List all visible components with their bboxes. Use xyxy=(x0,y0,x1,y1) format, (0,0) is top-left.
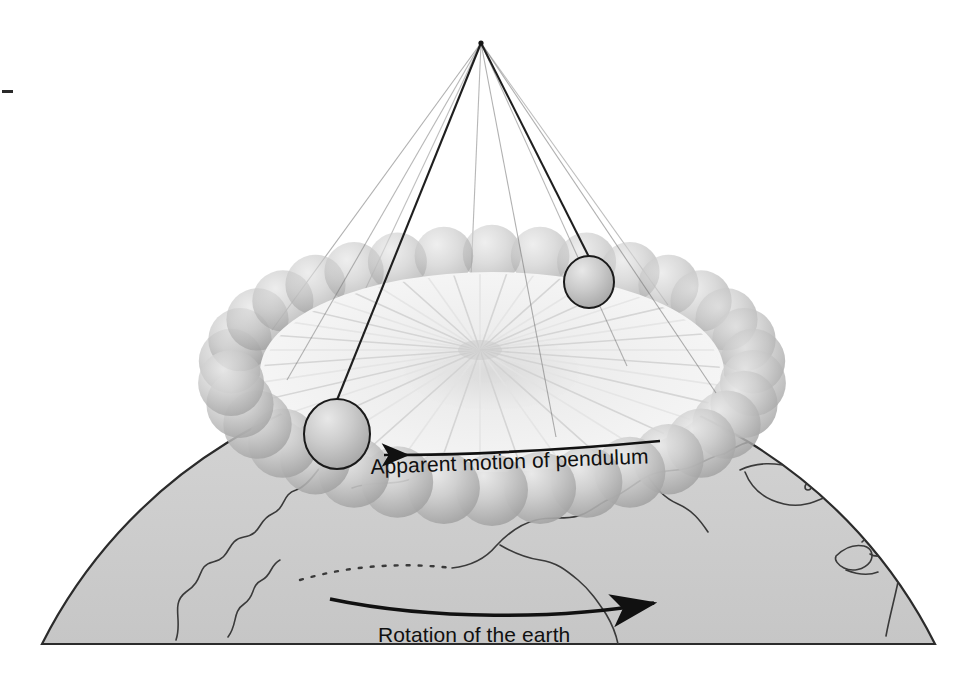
ghost-sphere xyxy=(198,350,264,416)
pendulum-bob-left xyxy=(304,399,370,469)
fan-convergence xyxy=(458,340,502,360)
earth-rotation-label: Rotation of the earth xyxy=(378,623,570,647)
pendulum-pivot-point xyxy=(478,40,483,45)
diagram-canvas xyxy=(0,0,977,691)
pendulum-wire-right xyxy=(481,43,589,257)
registration-tick-mark xyxy=(2,90,13,93)
foucault-pendulum-figure: Apparent motion of pendulum Rotation of … xyxy=(0,0,977,691)
pendulum-bob-right xyxy=(564,256,614,308)
